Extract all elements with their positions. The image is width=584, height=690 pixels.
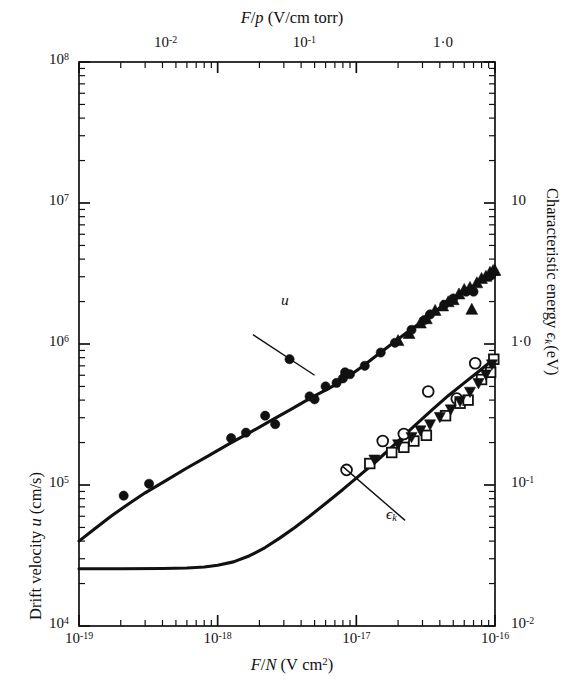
left-tick-label-0: 104 bbox=[0, 615, 69, 632]
right-axis-title: Characteristic energy ϵk (eV) bbox=[542, 188, 562, 376]
axis-ticks bbox=[79, 62, 495, 626]
series-u-filled-triangles bbox=[392, 264, 501, 345]
left-tick-label-2: 106 bbox=[0, 333, 69, 350]
marker-open-circle bbox=[423, 386, 434, 397]
marker-open-circle bbox=[470, 358, 481, 369]
figure-container: F/p (V/cm torr) F/N (V cm2) Drift veloci… bbox=[0, 0, 584, 690]
curve-label-u: u bbox=[281, 291, 289, 309]
marker-filled-circle bbox=[321, 382, 330, 391]
bottom-tick-label-3: 10-16 bbox=[455, 630, 535, 647]
right-tick-label-2: 1·0 bbox=[511, 333, 531, 350]
marker-filled-triangle-up bbox=[466, 303, 478, 314]
marker-filled-circle bbox=[360, 361, 369, 370]
marker-filled-circle bbox=[261, 411, 270, 420]
left-axis-title: Drift velocity u (cm/s) bbox=[26, 472, 46, 620]
right-tick-label-3: 10 bbox=[511, 192, 526, 209]
left-tick-label-4: 108 bbox=[0, 51, 69, 68]
leader-line bbox=[253, 335, 315, 376]
marker-filled-circle bbox=[271, 420, 280, 429]
series-u-filled-circles bbox=[119, 271, 495, 500]
marker-filled-circle bbox=[310, 395, 319, 404]
marker-filled-circle bbox=[241, 428, 250, 437]
data-markers bbox=[119, 264, 501, 500]
top-axis-title: F/p (V/cm torr) bbox=[0, 8, 584, 28]
marker-open-circle bbox=[377, 436, 388, 447]
left-tick-label-3: 107 bbox=[0, 192, 69, 209]
top-tick-label-0: 10-2 bbox=[126, 34, 206, 51]
marker-filled-circle bbox=[144, 479, 153, 488]
plot-canvas bbox=[0, 0, 584, 690]
marker-filled-circle bbox=[227, 434, 236, 443]
left-tick-label-1: 105 bbox=[0, 474, 69, 491]
bottom-tick-label-1: 10-18 bbox=[178, 630, 258, 647]
marker-open-square bbox=[387, 448, 397, 458]
top-tick-label-2: 1·0 bbox=[403, 34, 483, 51]
series-epsilon_k-open-circles bbox=[341, 358, 480, 475]
top-tick-label-1: 10-1 bbox=[264, 34, 344, 51]
curve-label-epsilon-k: ϵk bbox=[386, 505, 397, 523]
right-tick-label-1: 10-1 bbox=[511, 474, 534, 491]
marker-filled-circle bbox=[345, 370, 354, 379]
bottom-axis-title: F/N (V cm2) bbox=[0, 655, 584, 675]
plot-frame bbox=[79, 62, 495, 626]
plot-border bbox=[79, 62, 495, 626]
marker-filled-triangle-down bbox=[425, 420, 436, 430]
bottom-tick-label-2: 10-17 bbox=[316, 630, 396, 647]
marker-open-square bbox=[422, 431, 432, 441]
bottom-tick-label-0: 10-19 bbox=[39, 630, 119, 647]
right-tick-label-0: 10-2 bbox=[511, 615, 534, 632]
marker-filled-circle bbox=[376, 348, 385, 357]
marker-filled-circle bbox=[119, 491, 128, 500]
